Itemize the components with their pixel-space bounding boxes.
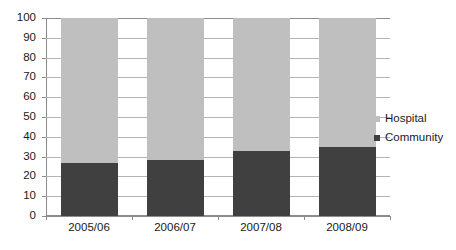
x-tick-mark bbox=[132, 216, 133, 220]
legend-label: Community bbox=[385, 131, 443, 144]
x-tick-label: 2008/09 bbox=[326, 221, 368, 234]
y-tick-label: 0 bbox=[30, 210, 36, 222]
chart-legend: HospitalCommunity bbox=[374, 110, 454, 148]
bar-segment-community[interactable] bbox=[61, 163, 118, 216]
y-tick-label: 90 bbox=[23, 32, 36, 44]
y-tick-label: 60 bbox=[23, 91, 36, 103]
legend-label: Hospital bbox=[385, 112, 427, 125]
bar-segment-community[interactable] bbox=[147, 160, 204, 216]
x-axis: 2005/062006/072007/082008/09 bbox=[46, 221, 390, 241]
legend-item[interactable]: Community bbox=[374, 129, 454, 146]
bar-segment-hospital[interactable] bbox=[61, 18, 118, 163]
x-tick-mark bbox=[390, 216, 391, 220]
y-axis: 0102030405060708090100 bbox=[0, 0, 42, 250]
x-tick-label: 2007/08 bbox=[240, 221, 282, 234]
y-tick-label: 50 bbox=[23, 111, 36, 123]
y-tick-label: 80 bbox=[23, 52, 36, 64]
bar-group[interactable] bbox=[61, 18, 118, 216]
x-tick-mark bbox=[304, 216, 305, 220]
stacked-bar-chart: 0102030405060708090100 2005/062006/07200… bbox=[0, 0, 456, 250]
y-tick-label: 20 bbox=[23, 171, 36, 183]
bar-segment-community[interactable] bbox=[319, 147, 376, 216]
bar-segment-hospital[interactable] bbox=[233, 18, 290, 151]
bar-segment-hospital[interactable] bbox=[147, 18, 204, 160]
legend-item[interactable]: Hospital bbox=[374, 110, 454, 127]
y-tick-label: 70 bbox=[23, 72, 36, 84]
y-tick-label: 40 bbox=[23, 131, 36, 143]
y-tick-label: 100 bbox=[17, 12, 36, 24]
y-tick-label: 30 bbox=[23, 151, 36, 163]
x-tick-mark bbox=[46, 216, 47, 220]
legend-swatch-icon bbox=[374, 135, 380, 141]
x-tick-label: 2006/07 bbox=[154, 221, 196, 234]
x-tick-label: 2005/06 bbox=[68, 221, 110, 234]
bar-group[interactable] bbox=[233, 18, 290, 216]
legend-swatch-icon bbox=[374, 116, 380, 122]
bar-group[interactable] bbox=[147, 18, 204, 216]
y-tick-label: 10 bbox=[23, 190, 36, 202]
plot-area bbox=[46, 18, 390, 216]
bar-segment-community[interactable] bbox=[233, 151, 290, 216]
x-tick-mark bbox=[218, 216, 219, 220]
bar-group[interactable] bbox=[319, 18, 376, 216]
bar-segment-hospital[interactable] bbox=[319, 18, 376, 147]
bars-layer bbox=[46, 18, 390, 216]
